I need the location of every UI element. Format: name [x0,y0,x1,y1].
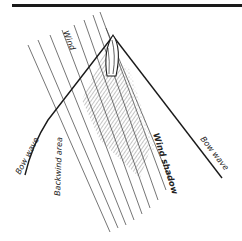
label-wind-shadow: Wind shadow [151,132,180,196]
label-backwind-area: Backwind area [53,137,64,196]
top-rule [12,4,242,7]
boat-icon [106,35,119,76]
sailing-diagram: Wind Bow wave Backwind area Wind shadow … [0,0,242,241]
label-wind: Wind [61,29,77,52]
label-bow-wave-left: Bow wave [14,136,41,176]
